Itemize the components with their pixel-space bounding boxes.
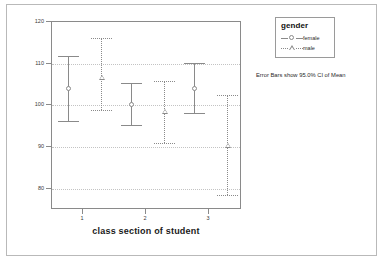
error-bar-note: Error Bars show 95.0% CI of Mean [256,72,346,78]
female-3-mean-marker [192,86,197,91]
female-2-cap-upper [121,83,142,84]
male-1-cap-lower [91,110,112,111]
chart-root: 120 110 100 90 80 total 1 2 3 class sect… [0,0,384,263]
x-tick-label-1: 1 [72,215,92,222]
legend-title: gender [281,21,329,30]
gridline-90 [52,147,240,148]
y-tick-label-90: 90 [18,143,44,149]
male-2-cap-lower [154,143,175,144]
male-2-cap-upper [154,81,175,82]
gridline-110 [52,64,240,65]
male-2-mean-marker [162,109,168,114]
male-1-mean-marker [99,75,105,80]
male-1-cap-upper [91,38,112,39]
x-tick-1 [82,209,83,214]
x-tick-label-3: 3 [198,215,218,222]
plot-area [51,21,241,209]
y-tick-100 [46,104,51,105]
y-tick-label-100: 100 [18,101,44,107]
y-tick-110 [46,63,51,64]
male-3-cap-lower [217,195,238,196]
male-3-mean-marker [225,143,231,148]
legend-item-male[interactable]: male [281,43,329,52]
female-3-cap-upper [184,63,205,64]
legend-item-female[interactable]: female [281,33,329,42]
y-tick-label-120: 120 [18,18,44,24]
female-2-cap-lower [121,125,142,126]
female-2-mean-marker [129,102,134,107]
female-1-cap-lower [58,121,79,122]
legend: gender female male [275,17,335,58]
y-tick-label-80: 80 [18,185,44,191]
female-3-cap-lower [184,113,205,114]
female-1-mean-marker [66,86,71,91]
y-axis-title: total [0,95,1,115]
y-tick-120 [46,21,51,22]
legend-label-female: female [303,34,320,42]
legend-label-male: male [303,44,315,52]
male-3-cap-upper [217,95,238,96]
y-tick-80 [46,188,51,189]
gridline-80 [52,189,240,190]
y-tick-label-110: 110 [18,60,44,66]
x-tick-3 [208,209,209,214]
y-axis-line [51,21,52,209]
x-tick-2 [145,209,146,214]
y-tick-90 [46,146,51,147]
x-tick-label-2: 2 [135,215,155,222]
circle-marker-icon [281,34,303,42]
x-axis-title: class section of student [51,226,241,236]
triangle-marker-icon [281,44,303,52]
gridline-100 [52,105,240,106]
female-1-cap-upper [58,56,79,57]
